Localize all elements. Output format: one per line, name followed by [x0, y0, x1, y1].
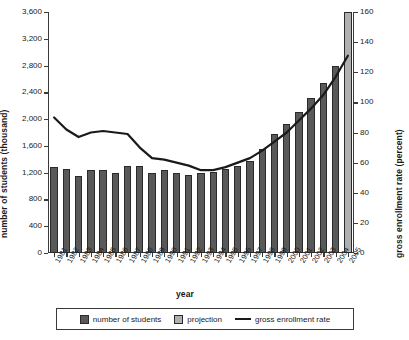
y-axis-left-line [48, 12, 49, 253]
legend-item-label: gross enrollment rate [255, 315, 330, 324]
y-axis-left-tick-mark [44, 119, 48, 120]
y-axis-left-tick-label: 0 [8, 248, 42, 257]
y-axis-left-tick-label: 2,400 [8, 87, 42, 96]
bar-number-of-students [75, 176, 82, 253]
y-axis-right-tick-label: 40 [360, 188, 390, 197]
y-axis-left-tick-label: 400 [8, 221, 42, 230]
bar-number-of-students [295, 112, 302, 253]
y-axis-left-tick-mark [44, 253, 48, 254]
legend-swatch-gross-enrollment-rate [235, 318, 251, 320]
legend-item-label: projection [187, 315, 222, 324]
bar-number-of-students [148, 173, 155, 253]
bar-number-of-students [246, 161, 253, 253]
y-axis-right-tick-mark [354, 193, 358, 194]
bar-number-of-students [87, 170, 94, 253]
y-axis-left-tick-mark [44, 199, 48, 200]
y-axis-right-title: gross enrollment rate (percent) [394, 129, 404, 258]
y-axis-right-tick-label: 0 [360, 248, 390, 257]
y-axis-right-tick-mark [354, 223, 358, 224]
y-axis-left-tick-mark [44, 226, 48, 227]
y-axis-left-tick-label: 2,800 [8, 61, 42, 70]
x-axis-title: year [176, 289, 194, 299]
bar-number-of-students [112, 173, 119, 253]
y-axis-right-tick-mark [354, 72, 358, 73]
y-axis-left-tick-label: 3,200 [8, 34, 42, 43]
y-axis-left-tick-mark [44, 146, 48, 147]
bar-projection [344, 12, 351, 253]
bar-number-of-students [136, 166, 143, 253]
y-axis-right-tick-label: 80 [360, 128, 390, 137]
bar-number-of-students [320, 83, 327, 253]
chart-container: number of students (thousand) gross enro… [0, 0, 409, 340]
bar-number-of-students [271, 134, 278, 253]
bar-number-of-students [173, 173, 180, 253]
y-axis-right-tick-label: 120 [360, 67, 390, 76]
y-axis-right-tick-mark [354, 133, 358, 134]
bar-number-of-students [234, 166, 241, 253]
chart-legend: number of studentsprojectiongross enroll… [56, 308, 354, 330]
y-axis-left-tick-label: 800 [8, 194, 42, 203]
bar-number-of-students [124, 166, 131, 253]
bar-number-of-students [307, 98, 314, 253]
legend-swatch-number-of-students [80, 315, 89, 324]
y-axis-left-tick-label: 1,200 [8, 168, 42, 177]
legend-item-label: number of students [93, 315, 161, 324]
y-axis-right-tick-mark [354, 163, 358, 164]
y-axis-left-tick-mark [44, 173, 48, 174]
y-axis-right-tick-mark [354, 42, 358, 43]
y-axis-left-tick-label: 1,600 [8, 141, 42, 150]
legend-swatch-projection [174, 315, 183, 324]
y-axis-left-tick-label: 3,600 [8, 7, 42, 16]
bar-number-of-students [50, 167, 57, 253]
legend-item: number of students [80, 315, 161, 324]
bar-number-of-students [332, 66, 339, 253]
bar-number-of-students [99, 170, 106, 253]
y-axis-left-tick-mark [44, 39, 48, 40]
y-axis-right-tick-label: 140 [360, 37, 390, 46]
bar-number-of-students [161, 170, 168, 253]
y-axis-left-tick-label: 2,000 [8, 114, 42, 123]
y-axis-right-tick-label: 160 [360, 7, 390, 16]
y-axis-right-tick-mark [354, 12, 358, 13]
bar-number-of-students [63, 169, 70, 253]
y-axis-right-tick-label: 60 [360, 158, 390, 167]
bar-number-of-students [210, 172, 217, 253]
y-axis-left-tick-mark [44, 12, 48, 13]
legend-item: gross enrollment rate [235, 315, 330, 324]
y-axis-right-tick-label: 100 [360, 97, 390, 106]
bar-number-of-students [259, 149, 266, 253]
plot-area [48, 12, 354, 253]
bar-number-of-students [222, 169, 229, 253]
legend-item: projection [174, 315, 222, 324]
bar-number-of-students [197, 173, 204, 253]
bar-number-of-students [283, 124, 290, 253]
bar-number-of-students [185, 175, 192, 253]
y-axis-right-tick-mark [354, 102, 358, 103]
y-axis-left-tick-mark [44, 92, 48, 93]
y-axis-right-tick-label: 20 [360, 218, 390, 227]
y-axis-left-tick-mark [44, 66, 48, 67]
